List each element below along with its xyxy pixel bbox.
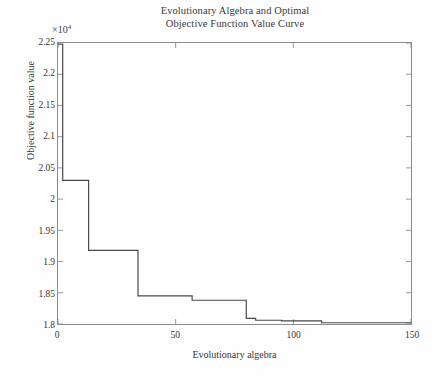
axis-ticks [58,43,411,324]
plot-svg [58,43,411,324]
plot-area [57,42,412,325]
y-tick-label: 1.85 [9,289,55,299]
objective-value-line [58,44,411,322]
x-tick-label: 0 [55,330,60,340]
x-tick-label: 100 [287,330,301,340]
chart-figure: Evolutionary Algebra and Optimal Objecti… [0,0,436,381]
y-axis-label: Objective function value [25,21,36,201]
y-axis-exponent-label: ×104 [52,24,71,35]
y-tick-label: 1.8 [9,320,55,330]
y-tick-label: 1.95 [9,226,55,236]
y-axis-exponent-power: 4 [68,23,72,31]
x-axis-label: Evolutionary algebra [57,349,412,360]
x-tick-label: 50 [171,330,181,340]
chart-title-line-2: Objective Function Value Curve [57,17,413,30]
chart-title: Evolutionary Algebra and Optimal Objecti… [57,4,413,30]
y-axis-exponent-base: ×10 [52,24,68,35]
y-tick-label: 1.9 [9,257,55,267]
x-tick-label: 150 [405,330,419,340]
chart-title-line-1: Evolutionary Algebra and Optimal [57,4,413,17]
